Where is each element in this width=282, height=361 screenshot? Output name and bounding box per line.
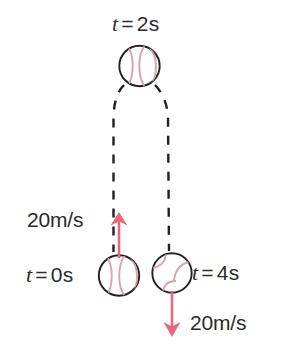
label-speed-up: 20m/s (27, 209, 83, 230)
label-time-left-value: 0s (51, 263, 74, 286)
label-time-top-eq: = (119, 12, 136, 35)
label-time-left: t=0s (26, 264, 73, 286)
label-time-top-value: 2s (137, 12, 160, 35)
label-time-left-eq: = (33, 263, 50, 286)
ball-top (119, 44, 159, 88)
label-time-top: t=2s (112, 13, 159, 35)
ball-left (99, 254, 139, 298)
diagram-canvas (0, 0, 282, 361)
label-time-right-eq: = (199, 261, 216, 284)
label-speed-down: 20m/s (190, 312, 246, 333)
ball-right (150, 252, 192, 294)
label-time-right-value: 4s (217, 261, 240, 284)
physics-diagram: t=2s t=0s t=4s 20m/s 20m/s (0, 0, 282, 361)
velocity-arrow-down (164, 291, 181, 337)
label-time-right: t=4s (192, 262, 239, 284)
trajectory-right-dashed (155, 85, 169, 251)
